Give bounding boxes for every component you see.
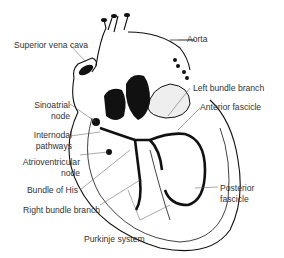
left-bundle-path [150,134,205,205]
aorta-outline [128,32,190,70]
label-sinoatrial-node-line2: node [0,111,70,121]
heart-conduction-diagram: Superior vena cava Aorta Left bundle bra… [0,0,284,258]
label-anterior-fascicle: Anterior fascicle [200,102,261,112]
label-bundle-of-his: Bundle of His [0,185,78,195]
right-bundle-path [135,140,141,210]
left-atrium [148,84,190,118]
label-left-bundle-branch: Left bundle branch [193,83,264,93]
label-posterior-fascicle-line2: fascicle [220,194,249,204]
label-internodal-pathways-line1: Internodal [0,130,72,140]
label-atrioventricular-node-line2: node [0,168,80,178]
label-right-bundle-branch: Right bundle branch [0,205,100,215]
right-atrium-dark [104,89,126,120]
label-sinoatrial-node-line1: Sinoatrial [0,100,70,110]
label-internodal-pathways-line2: pathways [0,141,72,151]
conduction-pathways [100,128,205,210]
label-aorta: Aorta [187,34,208,44]
label-posterior-fascicle-line1: Posterior [220,183,254,193]
label-atrioventricular-node-line1: Atrioventricular [0,157,80,167]
heart-illustration [0,0,284,258]
label-superior-vena-cava: Superior vena cava [14,40,69,50]
left-chamber-dark [126,75,150,120]
label-purkinje-system: Purkinje system [84,234,145,244]
svc-opening [77,63,95,78]
